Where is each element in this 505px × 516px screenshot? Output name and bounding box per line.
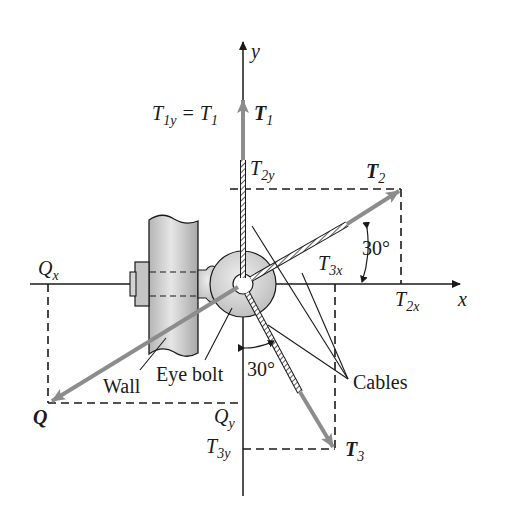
bolt-head	[135, 262, 149, 306]
t3x-label: T3x	[318, 252, 343, 278]
t1y-equation-label: T1y = T1	[152, 102, 218, 128]
t3-label: T3	[345, 438, 364, 464]
t3-angle-label: 30°	[247, 358, 275, 380]
qy-label: Qy	[214, 405, 235, 431]
t2-angle-label: 30°	[362, 237, 390, 259]
qx-label: Qx	[38, 257, 59, 283]
t3-angle-arc	[244, 341, 274, 348]
q-label: Q	[33, 406, 47, 428]
t2-label: T2	[366, 160, 385, 186]
eyebolt-leader	[205, 308, 232, 360]
t1-label: T1	[254, 102, 273, 128]
t3-vector	[300, 392, 333, 447]
t2y-label: T2y	[250, 157, 275, 183]
y-axis-label: y	[249, 40, 260, 63]
eye-bolt-label: Eye bolt	[156, 363, 224, 386]
force-diagram: y x T1y = T1 T1 T2y T2 30° T3x T2x Qx Wa…	[0, 0, 505, 516]
wall-label: Wall	[103, 375, 141, 397]
t2-vector	[347, 191, 399, 224]
bolt-tip	[130, 272, 136, 296]
cables-label: Cables	[353, 371, 408, 393]
t2x-label: T2x	[395, 288, 420, 314]
wall	[130, 215, 198, 356]
eye-bolt	[198, 251, 276, 317]
x-axis-label: x	[457, 288, 467, 310]
t3y-label: T3y	[206, 435, 231, 461]
